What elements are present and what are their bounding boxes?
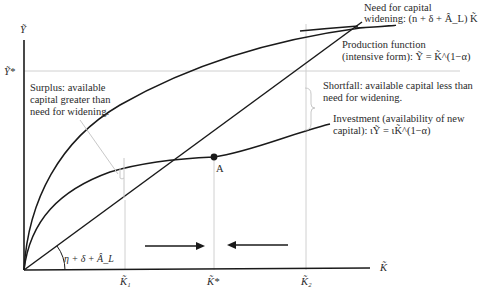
surplus-label-3: need for widening. <box>30 106 109 118</box>
capital-widening-label-2: widening: (n + δ + Â_L) K̃ <box>364 13 478 25</box>
investment-label-1: Investment (availability of new <box>333 113 465 125</box>
left-arrow-head <box>227 241 236 249</box>
investment-label-2: capital): ιỸ = ιK̃^(1−α) <box>333 125 431 137</box>
shortfall-label-1: Shortfall: available capital less than <box>323 80 473 92</box>
x-axis <box>24 268 370 270</box>
surplus-bracket <box>120 158 124 198</box>
y-axis-label: Ỹ <box>20 24 26 36</box>
k2-tick-label: K̃₂ <box>301 276 312 288</box>
capital-widening-line <box>24 22 362 270</box>
surplus-pointer <box>80 120 118 174</box>
point-a-label: A <box>216 163 224 175</box>
surplus-label-1: Surplus: available <box>30 82 106 94</box>
x-axis-label: K̃ <box>380 262 387 274</box>
y-star-label: Ỹ* <box>4 66 15 78</box>
production-curve <box>24 25 395 270</box>
slope-label: η + δ + Â_L <box>64 253 114 265</box>
kstar-tick-label: K̃* <box>207 276 219 288</box>
right-arrow-head <box>196 242 205 250</box>
surplus-label-2: capital greater than <box>30 94 110 106</box>
equilibrium-point-a <box>211 154 218 161</box>
k1-tick-label: K̃₁ <box>120 276 131 288</box>
shortfall-label-2: need for widening. <box>323 92 402 104</box>
production-label-1: Production function <box>342 39 426 51</box>
production-label-2: (intensive form): Ỹ = K̃^(1−α) <box>342 51 470 63</box>
